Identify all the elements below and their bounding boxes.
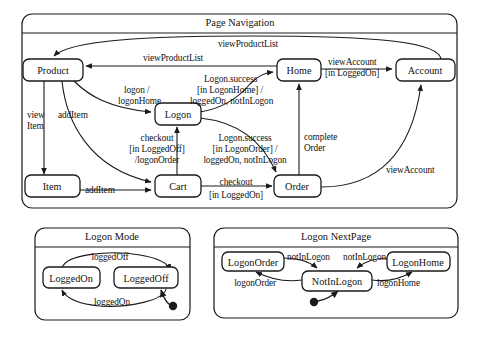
state-label-item: Item — [43, 181, 62, 192]
edge-label-notinlogon-to-logonorder: logonOrder — [234, 278, 276, 288]
panel-title-page-navigation: Page Navigation — [206, 17, 275, 28]
state-label-logonorder: LogonOrder — [228, 257, 278, 268]
edge-label-item-to-cart: addItem — [85, 185, 115, 195]
edge-label-product-to-item-line1: view — [27, 110, 45, 120]
edge-label-order-to-account: viewAccount — [386, 165, 434, 175]
edge-label-logon-to-home-line3: loggedOn, notInLogon — [190, 96, 273, 106]
edge-label-logon-to-home-line2: [in LogonHome] / — [197, 85, 263, 95]
state-label-loggedoff: LoggedOff — [123, 273, 168, 284]
state-label-loggedon: LoggedOn — [49, 273, 93, 284]
edge-label-order-to-home-line1: complete — [304, 132, 337, 142]
edge-label-home-to-product: viewProductList — [143, 53, 203, 63]
state-diagram-canvas: Page Navigation Logon Mode Logon NextPag… — [0, 0, 478, 338]
edge-label-cart-to-logon-line2: [in LoggedOff] — [129, 144, 185, 154]
edge-label-product-to-cart: addItem — [58, 110, 88, 120]
edge-label-product-to-item-line2: Item — [27, 121, 44, 131]
edge-label-logonhome-to-notinlogon: notInLogon — [343, 252, 386, 262]
edge-label-logon-to-order-line2: [in LogonOrder] / — [213, 144, 278, 154]
edge-label-logon-to-order-line1: Logon.success — [218, 133, 271, 143]
edge-label-cart-to-order-line2: [in LoggedOn] — [209, 190, 263, 200]
state-label-account: Account — [408, 65, 443, 76]
edge-label-cart-to-order-line1: checkout — [220, 177, 253, 187]
state-label-logonhome: LogonHome — [392, 257, 444, 268]
state-label-product: Product — [37, 65, 69, 76]
state-label-home: Home — [287, 65, 312, 76]
initial-state-dot-logon-nextpage — [310, 298, 318, 306]
edge-label-logon-to-home-line1: Logon.success — [204, 74, 257, 84]
panel-title-logon-mode: Logon Mode — [85, 231, 139, 242]
state-label-notinlogon: NotInLogon — [312, 276, 362, 287]
edge-label-product-to-logon-line2: logonHome — [118, 96, 161, 106]
state-label-logon: Logon — [165, 109, 192, 120]
state-label-order: Order — [285, 181, 309, 192]
edge-label-logonorder-to-notinlogon: notInLogon — [287, 252, 330, 262]
edge-label-cart-to-logon-line3: /logonOrder — [135, 155, 179, 165]
edge-label-notinlogon-to-logonhome: logonHome — [377, 278, 420, 288]
edge-label-logon-to-order-line3: loggedOn, notInLogon — [203, 155, 286, 165]
edge-label-loggedoff-to-loggedon: loggedOn — [94, 297, 130, 307]
edge-label-product-to-logon-line1: logon / — [124, 85, 149, 95]
edge-label-order-to-home-line2: Order — [304, 143, 325, 153]
edge-label-account-to-product: viewProductList — [218, 39, 278, 49]
initial-state-dot-logon-mode — [169, 302, 177, 310]
panel-title-logon-nextpage: Logon NextPage — [301, 231, 371, 242]
state-label-cart: Cart — [169, 181, 187, 192]
edge-label-cart-to-logon-line1: checkout — [141, 133, 174, 143]
edge-label-loggedon-to-loggedoff: loggedOff — [91, 252, 128, 262]
edge-label-home-to-account-line1: viewAccount — [328, 57, 376, 67]
edge-label-home-to-account-line2: [in LoggedOn] — [325, 68, 379, 78]
